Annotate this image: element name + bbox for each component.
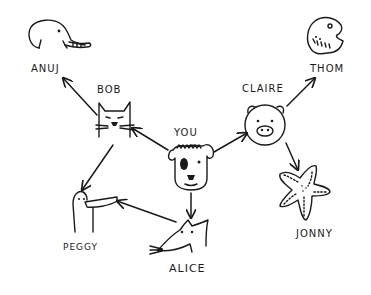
- node-label-peggy: PEGGY: [63, 243, 98, 252]
- node-label-anuj: ANUJ: [31, 64, 60, 74]
- edge-bob-anuj: [63, 78, 97, 115]
- node-label-claire: CLAIRE: [242, 84, 284, 94]
- edge-claire-thom: [287, 78, 315, 106]
- node-label-bob: BOB: [97, 85, 121, 95]
- node-label-you: YOU: [174, 128, 198, 138]
- elephant-icon: [25, 18, 95, 58]
- starfish-icon: [276, 164, 336, 226]
- dog-icon: [167, 142, 217, 194]
- node-label-jonny: JONNY: [296, 229, 333, 239]
- edge-you-bob: [132, 128, 168, 150]
- edge-bob-peggy: [82, 145, 113, 190]
- pig-icon: [243, 101, 291, 147]
- node-label-thom: THOM: [310, 64, 344, 74]
- rat-icon: [150, 216, 210, 256]
- cat-icon: [96, 101, 136, 141]
- node-label-alice: ALICE: [169, 263, 206, 274]
- social-graph-diagram: ANUJ BOB YOU CLAIRE THOM: [0, 0, 371, 295]
- platypus-icon: [65, 188, 121, 236]
- fish-icon: [305, 15, 347, 57]
